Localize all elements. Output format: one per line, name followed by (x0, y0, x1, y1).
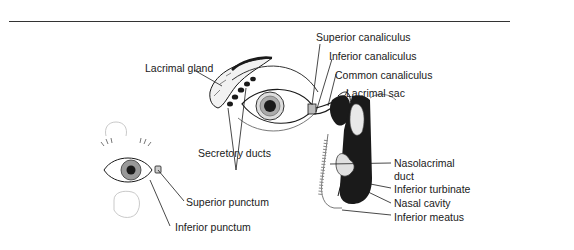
label-secretory-ducts: Secretory ducts (198, 147, 271, 159)
label-inferior-meatus: Inferior meatus (394, 211, 464, 223)
label-nasolacrimal-duct-line1: Nasolacrimal (394, 157, 455, 169)
label-nasolacrimal-duct-line2: duct (394, 170, 414, 182)
lacrimal-illustration (0, 0, 574, 250)
label-lacrimal-sac: Lacrimal sac (346, 87, 405, 99)
label-inferior-turbinate: Inferior turbinate (394, 183, 470, 195)
label-nasal-cavity: Nasal cavity (394, 197, 451, 209)
small-eye-illustration (101, 122, 161, 217)
label-common-canaliculus: Common canaliculus (335, 69, 432, 81)
label-inferior-punctum: Inferior punctum (175, 221, 251, 233)
label-superior-canaliculus: Superior canaliculus (316, 31, 411, 43)
label-inferior-canaliculus: Inferior canaliculus (329, 50, 417, 62)
label-lacrimal-gland: Lacrimal gland (145, 62, 213, 74)
nasal-section-illustration (320, 92, 396, 208)
label-superior-punctum: Superior punctum (186, 196, 269, 208)
